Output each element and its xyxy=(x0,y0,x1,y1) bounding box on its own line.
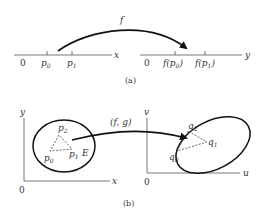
point-label-q1: q1 xyxy=(208,137,218,148)
y-axis-label: y xyxy=(244,50,251,60)
part-a: x 0 p0 p1 y 0 f(p0) f(p1) f (a) xyxy=(14,15,251,85)
mapping-diagram: x 0 p0 p1 y 0 f(p0) f(p1) f (a) y x 0 xyxy=(0,0,270,214)
mapping-arrow-f xyxy=(58,30,186,51)
point-label-p0: p0 xyxy=(41,58,51,69)
point-label-p1-b: p1 xyxy=(69,149,79,160)
caption-b: (b) xyxy=(123,199,134,208)
origin-label-right: 0 xyxy=(144,58,150,68)
mapping-arrow-fg xyxy=(72,131,186,140)
region-e-label: E xyxy=(81,148,89,158)
part-b: y x 0 E p2 p0 p1 v u 0 q2 q1 xyxy=(19,105,260,208)
point-label-f-p0: f(p0) xyxy=(162,58,183,69)
mapping-label-f: f xyxy=(119,15,125,25)
mapping-label-fg: (f, g) xyxy=(110,117,132,127)
right-plane-origin: 0 xyxy=(144,177,150,187)
caption-a: (a) xyxy=(125,76,136,85)
left-plane-origin: 0 xyxy=(19,185,25,195)
right-plane-v-label: v xyxy=(144,107,149,117)
right-plane-u-label: u xyxy=(243,168,249,178)
origin-label: 0 xyxy=(20,58,26,68)
point-label-q2: q2 xyxy=(188,121,198,132)
x-axis-label: x xyxy=(114,50,119,60)
point-label-q0: q0 xyxy=(169,152,179,163)
left-plane-x-label: x xyxy=(112,176,117,186)
point-label-p0-b: p0 xyxy=(44,153,54,164)
point-label-p1: p1 xyxy=(67,58,77,69)
left-plane-y-label: y xyxy=(19,107,26,117)
point-label-p2: p2 xyxy=(58,123,68,134)
point-label-f-p1: f(p1) xyxy=(194,58,215,69)
